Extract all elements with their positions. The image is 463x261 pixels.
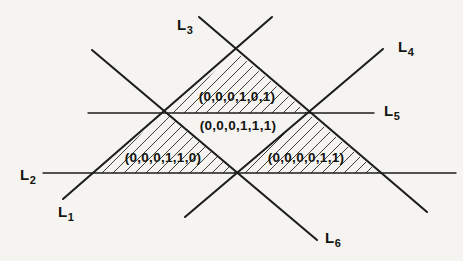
line-label-L2-letter: L	[20, 166, 29, 183]
line-arrangement-figure: (0,0,0,1,0,1)(0,0,0,1,1,1)(0,0,0,1,1,0)(…	[0, 0, 463, 261]
line-label-L2-subscript: 2	[30, 174, 36, 186]
region-lower-left-label: (0,0,0,1,1,0)	[125, 150, 202, 165]
line-label-L4-subscript: 4	[408, 46, 415, 58]
line-label-L3-letter: L	[177, 16, 186, 33]
line-label-L5-letter: L	[384, 102, 393, 119]
line-label-L6-subscript: 6	[335, 237, 341, 249]
line-label-L6: L6	[325, 229, 341, 249]
region-upper-label: (0,0,0,1,0,1)	[199, 89, 276, 104]
line-label-L6-letter: L	[325, 229, 334, 246]
line-label-L5: L5	[384, 102, 400, 122]
line-label-L5-subscript: 5	[394, 110, 400, 122]
line-label-L1: L1	[58, 203, 74, 223]
line-label-L1-subscript: 1	[68, 211, 74, 223]
line-label-L1-letter: L	[58, 203, 67, 220]
line-label-L3-subscript: 3	[187, 24, 193, 36]
line-label-L2: L2	[20, 166, 36, 186]
line-label-L4-letter: L	[398, 38, 407, 55]
line-label-L3: L3	[177, 16, 193, 36]
region-middle-label: (0,0,0,1,1,1)	[200, 118, 277, 133]
diagram-canvas: (0,0,0,1,0,1)(0,0,0,1,1,1)(0,0,0,1,1,0)(…	[0, 0, 463, 261]
region-lower-right-label: (0,0,0,0,1,1)	[268, 150, 345, 165]
line-label-L4: L4	[398, 38, 415, 58]
region-upper-area	[166, 53, 308, 113]
